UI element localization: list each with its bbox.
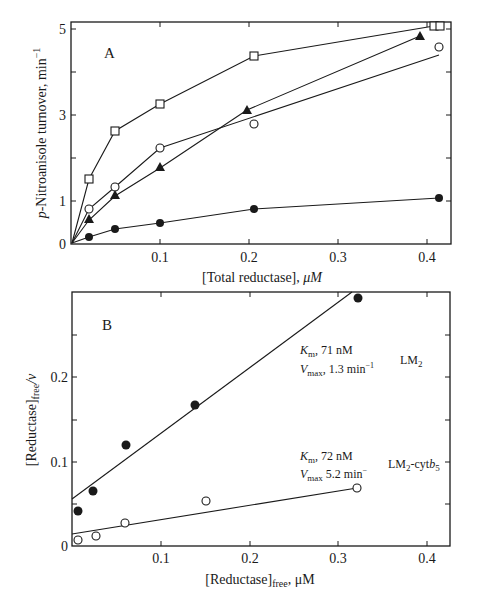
lm2-cytb5-name: LM2-cytb5: [388, 457, 440, 473]
lm2-km: Km, 71 nM: [299, 343, 353, 359]
x-tick-label: 0.4: [418, 250, 436, 265]
lm2-vmax: Vmax, 1.3 min−1: [300, 361, 374, 378]
x-tick-label: 0.3: [329, 250, 347, 265]
panel-b-label: B: [102, 317, 112, 333]
fit-line-lm2: [72, 292, 352, 499]
panel-b-bottom-ticks: [161, 541, 427, 546]
figure: 0.1 0.2 0.3 0.4 0 1 3 5 A [Total reducta…: [0, 0, 480, 599]
y-tick-label: 0: [61, 539, 68, 554]
panel-b-x-tick-labels: 0.1 0.2 0.3 0.4: [152, 551, 436, 566]
y-tick-label: 0.2: [51, 370, 69, 385]
lm2-name: LM2: [400, 353, 423, 369]
panel-a-left-ticks: [71, 29, 76, 201]
series-lm2-cytb5-markers: [74, 484, 361, 544]
x-tick-label: 0.3: [329, 551, 347, 566]
panel-a: 0.1 0.2 0.3 0.4 0 1 3 5 A [Total reducta…: [31, 22, 451, 285]
panel-a-label: A: [104, 45, 115, 61]
series-open-circles-markers: [85, 43, 443, 213]
panel-b-x-axis-title: [Reductase]free, μM: [205, 572, 315, 589]
panel-a-y-tick-labels: 0 1 3 5: [59, 22, 66, 252]
panel-a-y-axis-title: p-Nitroanisole turnover, min−1: [31, 48, 49, 220]
panel-b-left-ticks: [72, 335, 77, 504]
x-tick-label: 0.1: [152, 551, 170, 566]
annotation-lm2-cytb5: Km, 72 nM Vmax 5.2 min− LM2-cytb5: [299, 449, 440, 483]
panel-a-x-axis-title: [Total reductase], μM: [202, 270, 323, 285]
panel-b-fit-lines: [72, 292, 357, 534]
x-tick-label: 0.2: [241, 551, 259, 566]
panel-a-x-tick-labels: 0.1 0.2 0.3 0.4: [151, 250, 436, 265]
panel-a-top-ticks: [160, 22, 427, 27]
y-tick-label: 5: [59, 22, 66, 37]
y-tick-label: 0.1: [51, 455, 69, 470]
lm2-cytb5-vmax: Vmax 5.2 min−: [300, 466, 368, 483]
fit-line-lm2-cytb5: [72, 488, 357, 534]
series-open-circles-line: [72, 55, 439, 243]
panel-b-y-tick-labels: 0 0.1 0.2: [51, 370, 69, 554]
series-filled-circles-line: [72, 198, 439, 243]
panel-b-frame: [72, 292, 450, 546]
annotation-lm2: Km, 71 nM Vmax, 1.3 min−1 LM2: [299, 343, 423, 378]
panel-a-bottom-ticks: [160, 239, 427, 244]
y-tick-label: 1: [59, 194, 66, 209]
panel-b-y-axis-title: [Reductase]free/v: [24, 373, 41, 466]
panel-a-right-ticks: [446, 29, 451, 201]
series-triangles-line: [72, 36, 420, 243]
x-tick-label: 0.1: [151, 250, 169, 265]
x-tick-label: 0.2: [240, 250, 258, 265]
x-tick-label: 0.4: [418, 551, 436, 566]
y-tick-label: 0: [59, 237, 66, 252]
panel-b: 0.1 0.2 0.3 0.4 0 0.1 0.2 B [Reductase]f…: [24, 292, 450, 589]
panel-b-top-ticks: [161, 292, 427, 297]
lm2-cytb5-km: Km, 72 nM: [299, 449, 353, 465]
y-tick-label: 3: [59, 108, 66, 123]
panel-b-right-ticks: [445, 335, 450, 504]
